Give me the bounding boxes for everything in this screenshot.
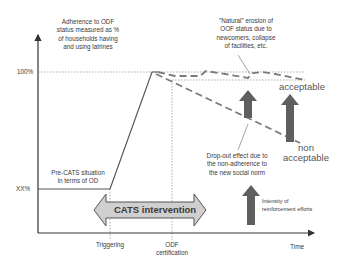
annotation-line: Drop-out effect due to — [193, 152, 281, 160]
annotation-line: newcomers, collapse — [200, 34, 292, 42]
tick-xx-percent: XX% — [16, 185, 30, 192]
y-axis-label-line: and using latrines — [44, 43, 132, 51]
tick-100-percent: 100% — [17, 68, 33, 75]
annotation-line: OOF status due to — [200, 25, 292, 33]
marker-triggering: Triggering — [90, 241, 130, 249]
reinforcement-legend: Intensity of reinforcement efforts — [262, 198, 312, 213]
annotation-line: the non-adherence to — [193, 160, 281, 168]
annotation-line: "Natural" erosion of — [200, 17, 292, 25]
acceptable-label: acceptable — [279, 82, 325, 92]
annotation-line: of facilities, etc. — [200, 42, 292, 50]
y-axis-label: Adherence to ODF status measured as % of… — [44, 18, 132, 51]
marker-line: certification — [150, 249, 194, 257]
dropout-pointer — [238, 124, 248, 150]
y-axis-label-line: of households having — [44, 35, 132, 43]
arrow-up-small — [239, 90, 257, 118]
dropout-annotation: Drop-out effect due to the non-adherence… — [193, 152, 281, 177]
natural-erosion-annotation: "Natural" erosion of OOF status due to n… — [200, 17, 292, 50]
pre-cats-annotation: Pre-CATS situation in terms of OD — [46, 169, 110, 186]
marker-line: ODF — [150, 241, 194, 249]
legend-line: Intensity of — [262, 198, 312, 206]
annotation-line: in terms of OD — [46, 177, 110, 185]
non-acceptable-label: non acceptable — [283, 143, 329, 163]
label-line: acceptable — [283, 153, 329, 163]
marker-odf-certification: ODF certification — [150, 241, 194, 258]
cats-intervention-label: CATS intervention — [114, 204, 196, 215]
y-axis-label-line: status measured as % — [44, 26, 132, 34]
x-axis-label-time: Time — [290, 243, 304, 251]
arrow-up-large — [281, 94, 299, 142]
y-axis-label-line: Adherence to ODF — [44, 18, 132, 26]
annotation-line: the new social norm — [193, 169, 281, 177]
annotation-line: Pre-CATS situation — [46, 169, 110, 177]
erosion-pointer — [238, 55, 250, 74]
arrow-up-legend — [242, 185, 260, 225]
legend-line: reinforcement efforts — [262, 206, 312, 214]
